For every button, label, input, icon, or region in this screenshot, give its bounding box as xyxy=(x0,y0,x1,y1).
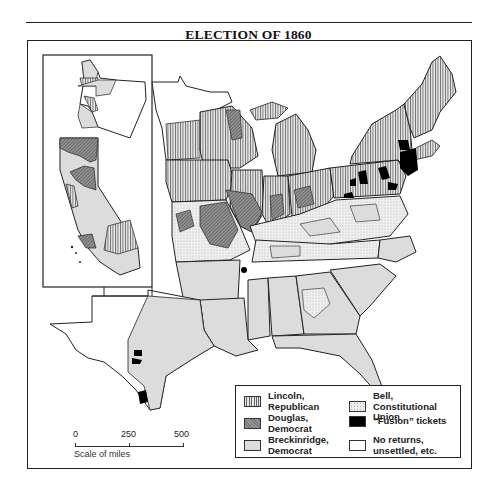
legend-item-lincoln: Lincoln, Republican xyxy=(244,391,319,412)
douglas-swatch-icon xyxy=(244,418,261,429)
legend-item-no-returns: No returns, unsettled, etc. xyxy=(349,435,437,456)
bell-swatch-icon xyxy=(349,401,366,412)
legend-item-breckinridge: Breckinridge, Democrat xyxy=(244,435,329,456)
fusion-swatch-icon xyxy=(349,416,366,427)
scale-tick-250: 250 xyxy=(121,429,136,439)
scale-bar: 0 250 500 Scale of miles xyxy=(70,429,195,459)
breckinridge-swatch-icon xyxy=(244,440,261,451)
scale-caption: Scale of miles xyxy=(74,449,130,459)
lincoln-swatch-icon xyxy=(244,396,261,407)
pacific-inset xyxy=(43,55,152,287)
legend-item-douglas: Douglas, Democrat xyxy=(244,413,312,434)
scale-tick-0: 0 xyxy=(73,429,78,439)
legend-item-fusion: “Fusion” tickets xyxy=(349,416,446,427)
no-returns-swatch-icon xyxy=(349,440,366,451)
legend: Lincoln, Republican Bell, Constitutional… xyxy=(235,385,461,458)
scale-mid-tick xyxy=(129,443,130,447)
scale-tick-500: 500 xyxy=(174,429,189,439)
